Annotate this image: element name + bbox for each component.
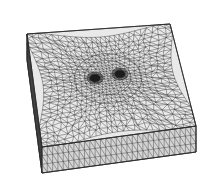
hole-left-bore xyxy=(90,74,100,82)
finite-element-mesh-svg xyxy=(0,0,211,181)
hole-right xyxy=(112,68,128,80)
mesh-figure-container xyxy=(0,0,211,181)
hole-left xyxy=(87,72,103,84)
hole-right-bore xyxy=(115,70,125,78)
